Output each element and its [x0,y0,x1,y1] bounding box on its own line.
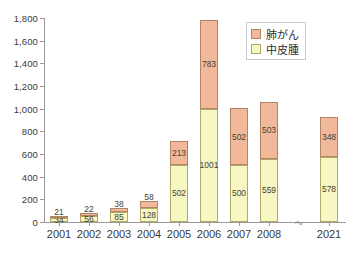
x-axis-label-2008: 2008 [257,228,281,240]
bar-value-lung-2004: 58 [144,192,153,201]
x-axis-label-2021: 2021 [317,228,341,240]
legend-swatch-meso-icon [251,44,261,54]
bar-value-lung-2007: 502 [232,133,246,142]
bar-value-lung-2003: 38 [114,200,123,209]
legend-swatch-lung-icon [251,29,261,39]
legend-label-meso: 中皮腫 [266,41,299,57]
y-axis-tick [40,222,44,223]
y-axis-label: 1,400 [14,58,38,69]
bar-segment-lung-2004[interactable]: 58 [140,201,158,208]
x-axis-label-2006: 2006 [197,228,221,240]
bar-value-meso-2002: 56 [84,215,93,224]
y-axis-label: 400 [22,171,38,182]
legend-label-lung: 肺がん [266,26,299,42]
y-axis-tick [40,41,44,42]
bar-2002[interactable]: 5622 [80,18,98,222]
bar-segment-lung-2006[interactable]: 783 [200,20,218,109]
bar-segment-meso-2008[interactable]: 559 [260,159,278,222]
x-axis-label-2003: 2003 [107,228,131,240]
bar-segment-meso-2021[interactable]: 578 [320,157,338,223]
legend-item-lung: 肺がん [251,26,299,41]
y-axis-tick [40,177,44,178]
bar-segment-lung-2007[interactable]: 502 [230,108,248,165]
bar-segment-meso-2006[interactable]: 1001 [200,109,218,222]
bar-value-meso-2021: 578 [322,185,336,194]
x-axis-tick [269,222,270,226]
bar-2021[interactable]: 578348 [320,18,338,222]
x-axis-tick [239,222,240,226]
bar-segment-lung-2001[interactable]: 21 [50,216,68,218]
bar-segment-lung-2002[interactable]: 22 [80,213,98,215]
bar-value-lung-2021: 348 [322,133,336,142]
x-axis-label-2004: 2004 [137,228,161,240]
bar-value-meso-2006: 1001 [200,161,219,170]
bar-value-meso-2007: 500 [232,189,246,198]
bar-value-meso-2004: 128 [142,211,156,220]
x-axis-tick [179,222,180,226]
x-axis-tick [59,222,60,226]
y-axis-tick [40,131,44,132]
y-axis-tick [40,86,44,87]
bar-segment-meso-2001[interactable]: 34 [50,218,68,222]
bar-2006[interactable]: 1001783 [200,18,218,222]
chart-legend: 肺がん 中皮腫 [246,22,306,60]
x-axis-label-2001: 2001 [47,228,71,240]
bar-value-lung-2008: 503 [262,126,276,135]
bar-value-lung-2005: 213 [172,149,186,158]
y-axis-tick [40,154,44,155]
y-axis-label: 0 [33,217,38,228]
x-axis-tick [119,222,120,226]
bar-segment-lung-2003[interactable]: 38 [110,208,128,212]
bar-segment-meso-2002[interactable]: 56 [80,216,98,222]
bar-2004[interactable]: 12858 [140,18,158,222]
bar-value-lung-2001: 21 [54,207,63,216]
y-axis-label: 1,600 [14,35,38,46]
bar-segment-meso-2007[interactable]: 500 [230,165,248,222]
bar-value-meso-2003: 85 [114,213,123,222]
bar-2003[interactable]: 8538 [110,18,128,222]
y-axis-label: 1,000 [14,103,38,114]
axis-break-marker-icon: 〜 [295,215,303,230]
legend-item-meso: 中皮腫 [251,41,299,56]
y-axis-label: 200 [22,194,38,205]
bar-segment-lung-2005[interactable]: 213 [170,141,188,165]
y-axis-label: 1,200 [14,81,38,92]
x-axis-label-2007: 2007 [227,228,251,240]
bar-value-meso-2008: 559 [262,186,276,195]
bar-segment-meso-2003[interactable]: 85 [110,212,128,222]
x-axis-tick [149,222,150,226]
y-axis-label: 600 [22,149,38,160]
bar-value-lung-2002: 22 [84,205,93,214]
bar-value-lung-2006: 783 [202,60,216,69]
y-axis-tick [40,63,44,64]
y-axis-tick [40,109,44,110]
y-axis-label: 1,800 [14,13,38,24]
bar-segment-meso-2005[interactable]: 502 [170,165,188,222]
y-axis-tick [40,18,44,19]
x-axis-tick [209,222,210,226]
y-axis-tick [40,199,44,200]
x-axis-label-2002: 2002 [77,228,101,240]
x-axis-tick [89,222,90,226]
x-axis-label-2005: 2005 [167,228,191,240]
y-axis-label: 800 [22,126,38,137]
bar-segment-meso-2004[interactable]: 128 [140,208,158,223]
bar-segment-lung-2008[interactable]: 503 [260,102,278,159]
bar-value-meso-2005: 502 [172,189,186,198]
bar-segment-lung-2021[interactable]: 348 [320,117,338,156]
bar-2005[interactable]: 502213 [170,18,188,222]
stacked-bar-chart: 02004006008001,0001,2001,4001,6001,80020… [0,0,354,260]
bar-2001[interactable]: 3421 [50,18,68,222]
x-axis-tick [329,222,330,226]
